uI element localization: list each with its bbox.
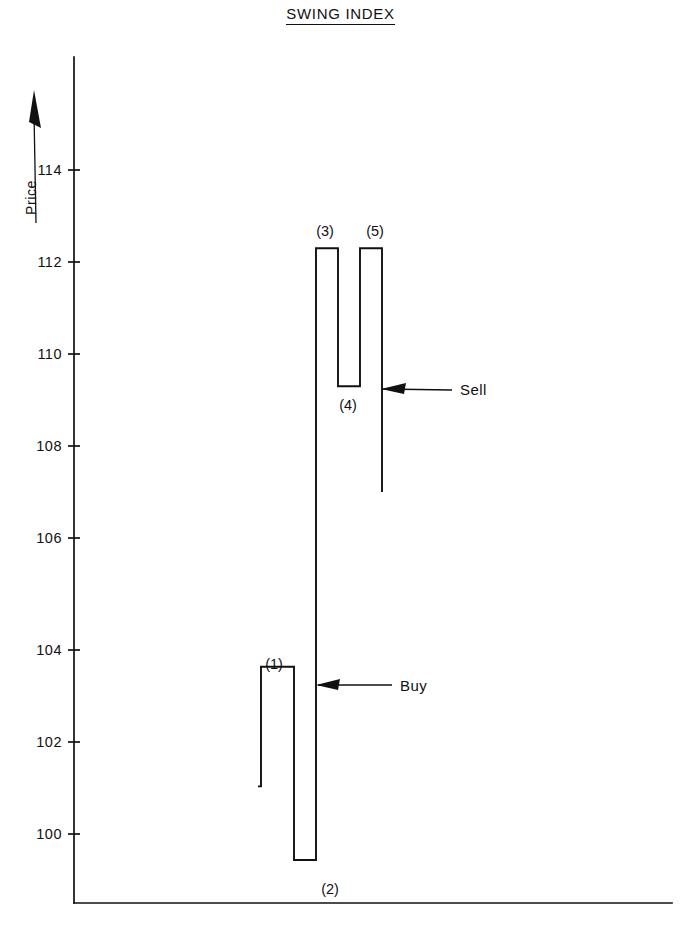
tick-label-102: 102 (36, 734, 62, 750)
point-label-4: (4) (339, 397, 357, 413)
point-label-1: (1) (265, 656, 283, 672)
point-label-2: (2) (321, 881, 339, 897)
tick-label-104: 104 (36, 642, 62, 658)
tick-label-100: 100 (36, 826, 62, 842)
chart-container: SWING INDEX Price 114 112 110 108 106 10… (0, 0, 681, 933)
tick-label-108: 108 (36, 438, 62, 454)
point-label-3: (3) (316, 223, 334, 239)
tick-label-110: 110 (37, 346, 62, 362)
buy-annotation: Buy (316, 677, 427, 694)
tick-label-114: 114 (37, 162, 62, 178)
sell-annotation-label: Sell (460, 381, 487, 398)
tick-label-112: 112 (37, 254, 62, 270)
buy-annotation-label: Buy (400, 677, 427, 694)
tick-label-106: 106 (36, 530, 62, 546)
sell-annotation: Sell (381, 381, 487, 398)
swing-index-series (258, 248, 382, 860)
y-axis-title: Price (23, 180, 39, 215)
swing-index-plot: Price 114 112 110 108 106 104 102 100 (1… (0, 0, 681, 933)
point-label-5: (5) (366, 223, 384, 239)
